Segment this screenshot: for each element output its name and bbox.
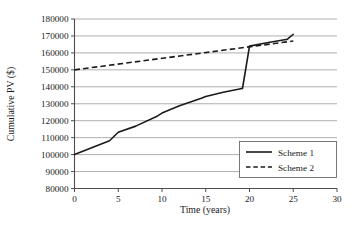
x-tick-label: 5 [116,194,121,204]
y-tick-label: 110000 [41,133,69,143]
x-tick-label: 0 [72,194,77,204]
y-tick-label: 160000 [41,48,69,58]
x-axis-title: Time (years) [180,204,230,216]
x-tick-label: 15 [201,194,211,204]
y-axis-title: Cumulative PV ($) [5,67,17,141]
y-tick-label: 130000 [41,99,69,109]
x-tick-label: 10 [157,194,167,204]
y-tick-label: 100000 [41,150,69,160]
legend: Scheme 1 Scheme 2 [240,142,337,178]
x-tick-label: 30 [332,194,342,204]
chart-container: 8000090000100000110000120000130000140000… [0,0,355,225]
y-tick-label: 180000 [41,14,69,24]
series-line-scheme-2 [75,41,294,70]
y-axis-group: 8000090000100000110000120000130000140000… [41,14,75,194]
x-tick-label: 25 [289,194,299,204]
x-tick-label: 20 [245,194,255,204]
legend-label-scheme-2: Scheme 2 [278,163,314,173]
y-tick-label: 90000 [46,167,69,177]
series-group [75,34,294,154]
y-tick-label: 140000 [41,82,69,92]
y-tick-label: 150000 [41,65,69,75]
y-tick-label: 170000 [41,31,69,41]
line-chart: 8000090000100000110000120000130000140000… [0,0,355,225]
y-tick-label: 80000 [46,184,69,194]
legend-label-scheme-1: Scheme 1 [278,148,314,158]
y-tick-label: 120000 [41,116,69,126]
x-axis-group: 051015202530 [72,189,342,205]
series-line-scheme-1 [75,34,294,154]
